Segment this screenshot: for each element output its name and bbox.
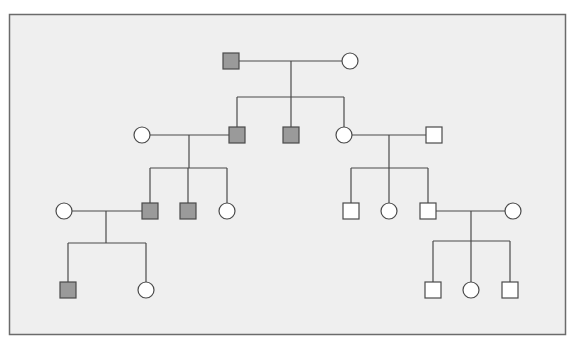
unaffected-female-circle-icon — [219, 203, 235, 219]
affected-male-square-icon — [142, 203, 158, 219]
unaffected-female-circle-icon — [134, 127, 150, 143]
unaffected-male-square-icon — [502, 282, 518, 298]
affected-male-square-icon — [60, 282, 76, 298]
diagram-panel — [10, 15, 566, 335]
affected-male-square-icon — [180, 203, 196, 219]
unaffected-female-circle-icon — [56, 203, 72, 219]
unaffected-male-square-icon — [425, 282, 441, 298]
affected-male-square-icon — [229, 127, 245, 143]
pedigree-chart — [0, 0, 574, 345]
unaffected-male-square-icon — [420, 203, 436, 219]
unaffected-female-circle-icon — [505, 203, 521, 219]
unaffected-female-circle-icon — [342, 53, 358, 69]
unaffected-female-circle-icon — [138, 282, 154, 298]
unaffected-male-square-icon — [426, 127, 442, 143]
unaffected-female-circle-icon — [463, 282, 479, 298]
unaffected-female-circle-icon — [381, 203, 397, 219]
affected-male-square-icon — [223, 53, 239, 69]
unaffected-male-square-icon — [343, 203, 359, 219]
unaffected-female-circle-icon — [336, 127, 352, 143]
affected-male-square-icon — [283, 127, 299, 143]
